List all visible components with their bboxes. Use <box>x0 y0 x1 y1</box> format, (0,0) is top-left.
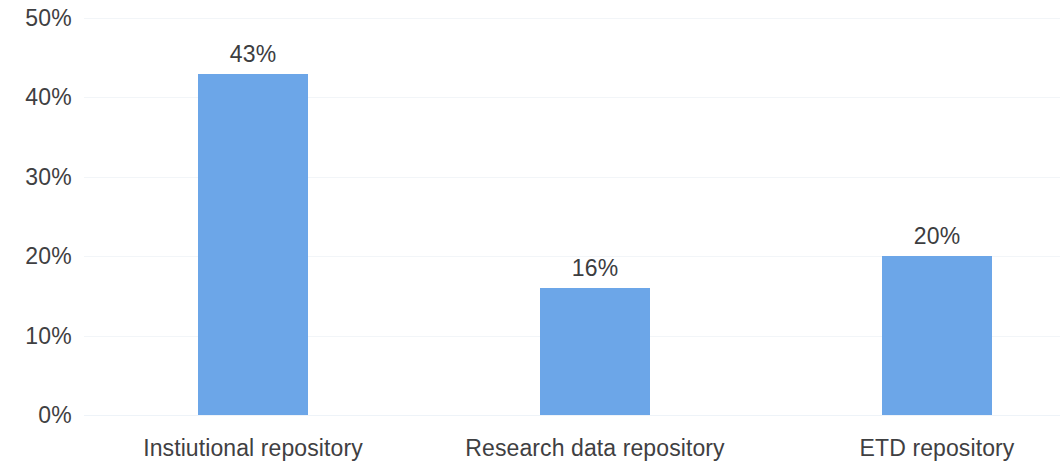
x-axis-category-label: ETD repository <box>772 435 1060 461</box>
x-axis-category-label: Research data repository <box>430 435 760 461</box>
bar-value-label: 16% <box>515 257 675 280</box>
plot-area: 43%Instiutional repository16%Research da… <box>0 0 1060 466</box>
bar-value-label: 20% <box>857 225 1017 248</box>
bar-value-label: 43% <box>173 43 333 66</box>
bar[interactable] <box>882 256 992 415</box>
x-axis-category-label: Instiutional repository <box>88 435 418 461</box>
bar[interactable] <box>540 288 650 415</box>
bar[interactable] <box>198 74 308 415</box>
bar-chart: 50%40%30%20%10%0% 43%Instiutional reposi… <box>0 0 1060 466</box>
